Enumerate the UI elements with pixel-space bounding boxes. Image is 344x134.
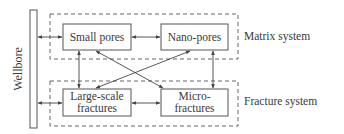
arrow-small-micro [96, 51, 163, 88]
diagram-canvas: Wellbore Matrix system Fracture system S… [0, 0, 344, 134]
node-micro-fractures: Micro- fractures [161, 89, 228, 116]
matrix-system-label: Matrix system [244, 30, 310, 43]
svg-text:Micro-: Micro- [179, 90, 211, 102]
arrow-nano-large [96, 51, 190, 88]
node-small-pores: Small pores [63, 24, 131, 50]
svg-text:Small pores: Small pores [70, 31, 125, 44]
svg-text:Nano-pores: Nano-pores [168, 31, 222, 44]
svg-text:fractures: fractures [77, 102, 118, 114]
fracture-system-label: Fracture system [244, 95, 317, 108]
node-large-scale-fractures: Large-scale fractures [63, 89, 131, 116]
wellbore: Wellbore [11, 10, 37, 128]
node-nano-pores: Nano-pores [161, 24, 228, 50]
wellbore-bar [30, 10, 37, 128]
svg-text:fractures: fractures [174, 102, 215, 114]
wellbore-label: Wellbore [11, 47, 25, 91]
